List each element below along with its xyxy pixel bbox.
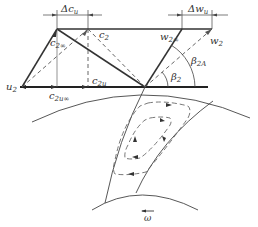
beta2-arc — [162, 72, 168, 87]
label-beta2A: β2A — [191, 56, 206, 68]
label-w2inf: w2∞ — [160, 32, 179, 44]
label-c2: c2 — [99, 30, 109, 42]
inner-circle — [92, 195, 198, 210]
blade-2 — [136, 101, 213, 193]
label-delta-wu: Δwu — [188, 4, 208, 16]
diagram-svg — [0, 0, 258, 227]
label-c2u: c2u — [92, 76, 107, 88]
velocity-triangle-diagram: Δcu Δwu c2∞ c2 w2∞ w2 u2 c2u c2u∞ β2 β2A… — [0, 0, 258, 227]
eddy-arrows — [128, 103, 172, 176]
c2u-arrowhead — [82, 85, 88, 89]
label-u2: u2 — [6, 82, 17, 94]
label-c2uinf: c2u∞ — [49, 91, 69, 103]
label-w2: w2 — [210, 36, 223, 48]
label-delta-cu: Δcu — [61, 4, 78, 16]
c2uinf-arrowhead — [51, 85, 57, 89]
blade-1 — [105, 87, 145, 203]
label-omega: ω — [144, 214, 151, 223]
label-c2inf: c2∞ — [50, 38, 66, 50]
label-beta2: β2 — [171, 72, 181, 84]
c2-arrowhead — [82, 29, 88, 36]
